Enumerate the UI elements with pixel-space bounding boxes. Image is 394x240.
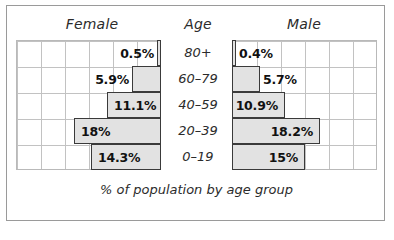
- bar-value-female-0–19: 14.3%: [92, 150, 140, 165]
- bar-female-80+: 0.5%: [157, 40, 161, 66]
- bar-value-male-40–59: 10.9%: [236, 98, 284, 113]
- age-label-20–39: 20–39: [163, 118, 233, 144]
- bar-female-20–39: 18%: [74, 118, 161, 144]
- age-label-40–59: 40–59: [163, 92, 233, 118]
- bar-value-female-80+: 0.5%: [120, 46, 159, 61]
- bar-value-female-40–59: 11.1%: [108, 98, 156, 113]
- bar-male-20–39: 18.2%: [232, 118, 320, 144]
- bar-male-60–79: 5.7%: [232, 66, 260, 92]
- bar-value-male-80+: 0.4%: [234, 46, 273, 61]
- age-label-60–79: 60–79: [163, 66, 233, 92]
- bar-female-60–79: 5.9%: [132, 66, 161, 92]
- bar-value-male-20–39: 18.2%: [271, 124, 319, 139]
- bar-female-40–59: 11.1%: [107, 92, 161, 118]
- bar-value-male-0–19: 15%: [269, 150, 304, 165]
- age-label-0–19: 0–19: [163, 144, 233, 170]
- bar-male-40–59: 10.9%: [232, 92, 285, 118]
- age-label-80+: 80+: [163, 40, 233, 66]
- bar-value-female-60–79: 5.9%: [95, 72, 134, 87]
- bar-value-male-60–79: 5.7%: [258, 72, 297, 87]
- chart-caption: % of population by age group: [16, 182, 377, 197]
- bar-value-female-20–39: 18%: [75, 124, 110, 139]
- bar-female-0–19: 14.3%: [91, 144, 161, 170]
- bar-male-0–19: 15%: [232, 144, 305, 170]
